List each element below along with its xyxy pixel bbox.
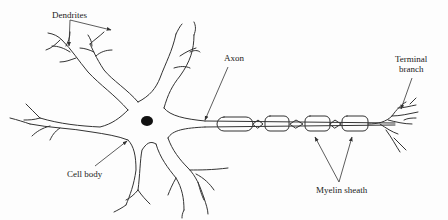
myelin-sheath-segments — [217, 116, 368, 131]
label-axon: Axon — [224, 53, 244, 63]
nucleus — [141, 116, 153, 126]
myelin-leader-b — [339, 137, 352, 182]
neuron-diagram — [0, 0, 448, 220]
label-dendrites: Dendrites — [52, 10, 87, 20]
label-leaders — [69, 20, 412, 182]
label-myelin-sheath: Myelin sheath — [316, 185, 367, 195]
cell-body-leader — [95, 141, 127, 166]
myelin-leader-a — [315, 137, 339, 182]
label-cell-body: Cell body — [67, 169, 102, 179]
dendrites-leader-b — [70, 20, 111, 30]
label-terminal-branch-line2: branch — [399, 64, 424, 74]
axon-leader — [205, 67, 228, 120]
label-terminal-branch-line1: Terminal — [395, 54, 427, 64]
cell-body-outline — [30, 34, 205, 210]
dendrites-leader-a — [69, 20, 70, 46]
